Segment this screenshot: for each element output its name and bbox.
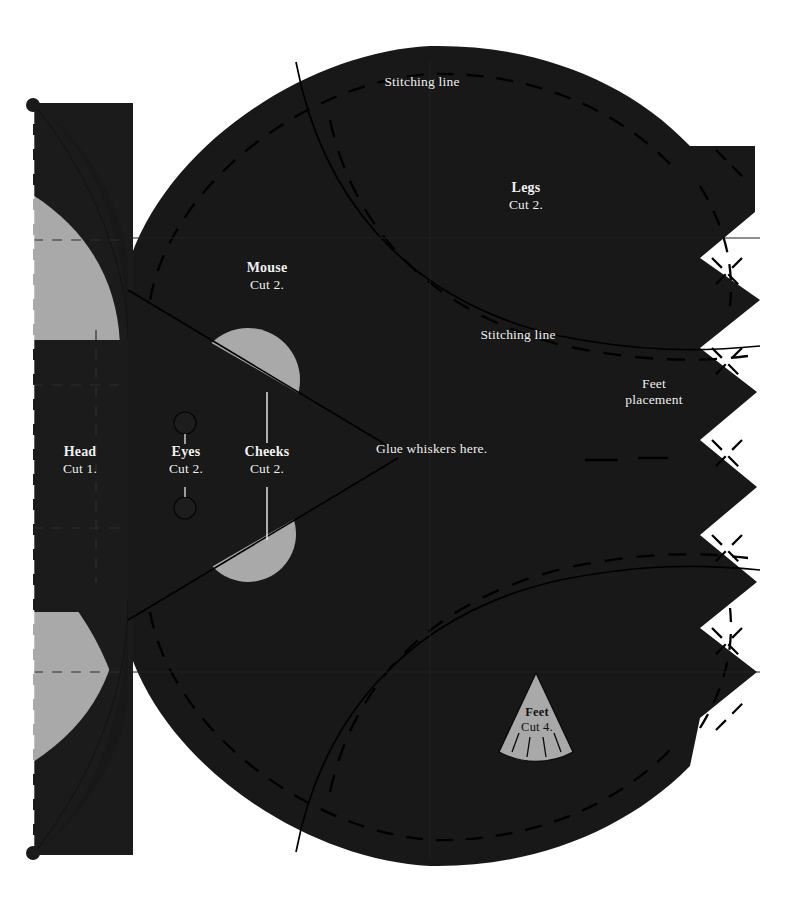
label-piece-legs: Legs Cut 2. [466, 180, 586, 212]
glue-whiskers-text: Glue whiskers here. [376, 441, 596, 457]
feet-placement-line2: placement [589, 392, 719, 408]
head-cut: Cut 1. [30, 461, 130, 477]
mouse-cut: Cut 2. [207, 277, 327, 293]
stitching-line-middle-text: Stitching line [428, 327, 608, 343]
head-title: Head [30, 444, 130, 461]
cheeks-title: Cheeks [216, 444, 318, 461]
label-stitching-line-middle: Stitching line [428, 327, 608, 343]
label-piece-mouse: Mouse Cut 2. [207, 260, 327, 292]
pattern-sheet: Stitching line Legs Cut 2. Mouse Cut 2. … [0, 0, 797, 912]
label-piece-cheeks: Cheeks Cut 2. [216, 444, 318, 476]
label-piece-feet: Feet Cut 4. [500, 705, 574, 735]
label-piece-head: Head Cut 1. [30, 444, 130, 476]
legs-title: Legs [466, 180, 586, 197]
legs-cut: Cut 2. [466, 197, 586, 213]
feet-placement-line1: Feet [589, 376, 719, 392]
label-feet-placement: Feet placement [589, 376, 719, 408]
feet-title: Feet [500, 705, 574, 720]
fold-dot-top [26, 98, 40, 112]
feet-cut: Cut 4. [500, 720, 574, 735]
label-glue-whiskers: Glue whiskers here. [376, 441, 596, 457]
eye-circle-top [174, 412, 196, 434]
eye-circle-bottom [174, 497, 196, 519]
fold-dot-bottom [26, 846, 40, 860]
stitching-line-top-text: Stitching line [332, 74, 512, 90]
label-stitching-line-top: Stitching line [332, 74, 512, 90]
cheeks-cut: Cut 2. [216, 461, 318, 477]
mouse-title: Mouse [207, 260, 327, 277]
